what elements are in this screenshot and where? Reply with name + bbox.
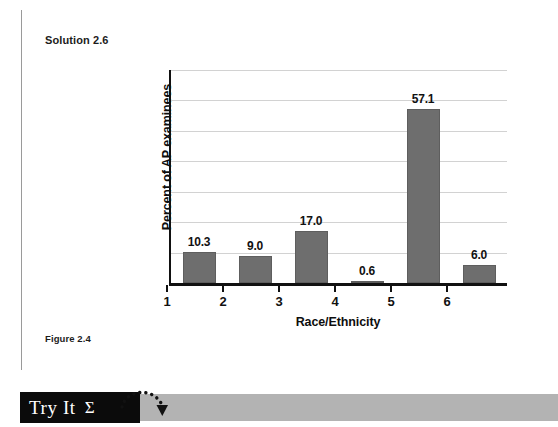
figure-caption: Figure 2.4	[45, 333, 91, 344]
bar-value-label: 0.6	[339, 264, 395, 278]
tick-mark	[446, 285, 448, 292]
solution-heading: Solution 2.6	[45, 34, 109, 46]
bar-chart: Percent of AP examinees 10.39.017.00.657…	[137, 70, 512, 320]
x-tick-label: 5	[387, 294, 394, 309]
x-tick: 4	[307, 285, 363, 315]
x-tick: 6	[419, 285, 475, 315]
bar-slot: 0.6	[339, 70, 395, 283]
try-it-label: Try It	[29, 397, 76, 419]
tick-mark	[390, 285, 392, 292]
x-tick: 5	[363, 285, 419, 315]
x-tick: 1	[139, 285, 195, 315]
x-tick-label: 1	[163, 294, 170, 309]
plot-area: 10.39.017.00.657.16.0	[169, 70, 507, 285]
bar-value-label: 17.0	[283, 214, 339, 228]
bar	[407, 109, 440, 283]
x-tick-label: 3	[275, 294, 282, 309]
x-tick: 2	[195, 285, 251, 315]
tick-mark	[166, 285, 168, 292]
x-tick-label: 4	[331, 294, 338, 309]
try-it-label-box[interactable]: Try It Σ	[20, 392, 140, 423]
bar	[239, 256, 272, 283]
x-tick-label: 6	[443, 294, 450, 309]
x-axis-title: Race/Ethnicity	[169, 315, 507, 329]
bar-slot: 6.0	[451, 70, 507, 283]
bar-slot: 57.1	[395, 70, 451, 283]
sigma-icon: Σ	[85, 398, 95, 418]
bar-slot: 9.0	[227, 70, 283, 283]
bar-value-label: 9.0	[227, 239, 283, 253]
bar-value-label: 10.3	[171, 235, 227, 249]
tick-mark	[278, 285, 280, 292]
bar	[295, 231, 328, 283]
tick-mark	[334, 285, 336, 292]
bar-slot: 10.3	[171, 70, 227, 283]
x-tick: 3	[251, 285, 307, 315]
bar	[183, 252, 216, 283]
page-margin-rule	[21, 10, 22, 370]
bar-value-label: 57.1	[395, 92, 451, 106]
bar-slot: 17.0	[283, 70, 339, 283]
bar	[463, 265, 496, 283]
x-tick-label: 2	[219, 294, 226, 309]
bars-group: 10.39.017.00.657.16.0	[171, 70, 507, 283]
tick-mark	[222, 285, 224, 292]
bar-value-label: 6.0	[451, 248, 507, 262]
x-tick-group: 123456	[139, 285, 475, 315]
